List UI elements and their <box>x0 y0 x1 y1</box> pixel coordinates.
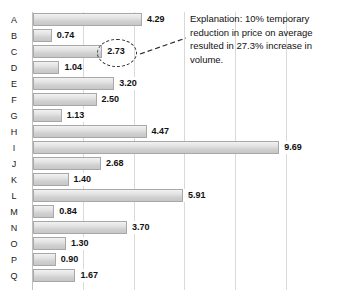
bar-value-D: 1.04 <box>60 61 82 74</box>
bar-J <box>33 157 101 170</box>
category-label-D: D <box>2 60 26 76</box>
bar-chart: A4.29B0.74C2.73D1.04E3.20F2.50G1.13H4.47… <box>0 0 349 300</box>
bar-B <box>33 29 52 42</box>
category-label-I: I <box>2 140 26 156</box>
category-label-H: H <box>2 124 26 140</box>
category-label-F: F <box>2 92 26 108</box>
bar-row: L5.91 <box>32 188 349 204</box>
category-label-K: K <box>2 172 26 188</box>
bar-value-H: 4.47 <box>148 125 170 138</box>
bar-value-L: 5.91 <box>184 189 206 202</box>
category-label-Q: Q <box>2 268 26 284</box>
bar-row: E3.20 <box>32 76 349 92</box>
category-label-M: M <box>2 204 26 220</box>
bar-row: J2.68 <box>32 156 349 172</box>
bar-value-A: 4.29 <box>143 13 165 26</box>
bar-E <box>33 77 114 90</box>
explanation-text: Explanation: 10% temporary reduction in … <box>190 12 342 66</box>
bar-row: Q1.67 <box>32 268 349 284</box>
bar-row: F2.50 <box>32 92 349 108</box>
bar-row: N3.70 <box>32 220 349 236</box>
bar-N <box>33 221 127 234</box>
bar-K <box>33 173 69 186</box>
bar-value-O: 1.30 <box>67 237 89 250</box>
bar-value-M: 0.84 <box>55 205 77 218</box>
category-label-J: J <box>2 156 26 172</box>
bar-value-J: 2.68 <box>102 157 124 170</box>
category-label-C: C <box>2 44 26 60</box>
bar-value-N: 3.70 <box>128 221 150 234</box>
bar-D <box>33 61 59 74</box>
bar-value-C: 2.73 <box>103 45 125 58</box>
bar-P <box>33 253 56 266</box>
category-label-E: E <box>2 76 26 92</box>
category-label-L: L <box>2 188 26 204</box>
bar-row: G1.13 <box>32 108 349 124</box>
bar-F <box>33 93 97 106</box>
bar-row: H4.47 <box>32 124 349 140</box>
bar-value-P: 0.90 <box>57 253 79 266</box>
bar-row: I9.69 <box>32 140 349 156</box>
bar-C <box>33 45 102 58</box>
bar-value-I: 9.69 <box>280 141 302 154</box>
bar-row: P0.90 <box>32 252 349 268</box>
bar-row: M0.84 <box>32 204 349 220</box>
category-label-A: A <box>2 12 26 28</box>
bar-Q <box>33 269 75 282</box>
bar-I <box>33 141 279 154</box>
bar-value-Q: 1.67 <box>76 269 98 282</box>
bar-value-G: 1.13 <box>63 109 85 122</box>
bar-M <box>33 205 54 218</box>
bar-A <box>33 13 142 26</box>
category-label-N: N <box>2 220 26 236</box>
bar-G <box>33 109 62 122</box>
category-label-P: P <box>2 252 26 268</box>
bar-row: K1.40 <box>32 172 349 188</box>
bar-L <box>33 189 183 202</box>
bar-row: O1.30 <box>32 236 349 252</box>
category-label-B: B <box>2 28 26 44</box>
category-label-G: G <box>2 108 26 124</box>
bar-value-F: 2.50 <box>98 93 120 106</box>
bar-value-B: 0.74 <box>53 29 75 42</box>
category-label-O: O <box>2 236 26 252</box>
bar-value-K: 1.40 <box>70 173 92 186</box>
bar-value-E: 3.20 <box>115 77 137 90</box>
bar-H <box>33 125 147 138</box>
bar-O <box>33 237 66 250</box>
